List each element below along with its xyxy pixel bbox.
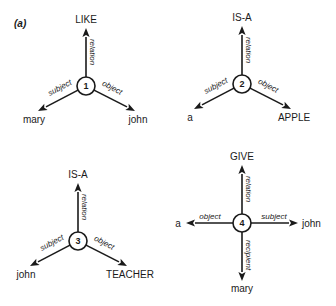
target-node-label: APPLE: [278, 112, 311, 123]
edge-label-subject: subject: [261, 212, 287, 221]
arrowhead-icon: [38, 104, 48, 111]
hub-node-number: 2: [239, 79, 244, 89]
arrowhead-icon: [125, 104, 135, 111]
arrowhead-icon: [289, 219, 298, 226]
arrowhead-icon: [74, 183, 81, 192]
arrowhead-icon: [186, 219, 195, 226]
graph-1: LIKErelationmarysubjectjohnobject1: [23, 14, 148, 125]
semantic-network-diagram: (a) LIKErelationmarysubjectjohnobject1IS…: [0, 0, 336, 306]
arrowhead-icon: [82, 28, 89, 37]
edge-label-relation: relation: [244, 176, 253, 203]
panel-label: (a): [14, 18, 27, 29]
target-node-label: john: [301, 218, 321, 229]
target-node-label: mary: [231, 283, 253, 294]
target-node-label: LIKE: [75, 14, 97, 25]
graph-3: IS-ArelationjohnsubjectTEACHERobject3: [16, 169, 154, 280]
target-node-label: a: [187, 112, 193, 123]
arrowhead-icon: [238, 272, 245, 281]
hub-node-number: 4: [239, 218, 244, 228]
target-node-label: john: [16, 269, 36, 280]
target-node-label: TEACHER: [106, 269, 154, 280]
target-node-label: mary: [23, 114, 45, 125]
arrowhead-icon: [30, 259, 40, 266]
hub-node-number: 3: [75, 236, 80, 246]
edge-line-object: [94, 90, 127, 107]
arrowhead-icon: [117, 259, 127, 266]
target-node-label: john: [128, 114, 148, 125]
edge-line-object: [250, 88, 283, 105]
edge-label-recipient: recipient: [244, 240, 253, 271]
target-node-label: a: [175, 218, 181, 229]
edge-label-relation: relation: [80, 194, 89, 221]
arrowhead-icon: [194, 102, 204, 109]
edge-line-object: [86, 245, 119, 262]
graph-2: IS-ArelationasubjectAPPLEobject2: [187, 12, 310, 123]
edge-label-object: object: [199, 212, 221, 221]
arrowhead-icon: [238, 26, 245, 35]
graph-4: GIVErelationaobjectjohnsubjectmaryrecipi…: [175, 151, 321, 294]
hub-node-number: 1: [83, 81, 88, 91]
target-node-label: IS-A: [68, 169, 88, 180]
target-node-label: IS-A: [232, 12, 252, 23]
edge-label-relation: relation: [244, 37, 253, 64]
target-node-label: GIVE: [230, 151, 254, 162]
edge-label-relation: relation: [88, 39, 97, 66]
arrowhead-icon: [281, 102, 291, 109]
arrowhead-icon: [238, 165, 245, 174]
